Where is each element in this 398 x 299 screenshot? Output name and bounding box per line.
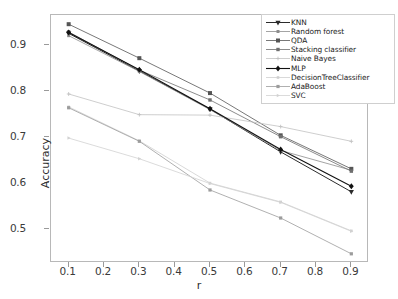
legend-item-stacking-classifier[interactable]: Stacking classifier — [265, 45, 390, 54]
data-point — [349, 183, 354, 189]
legend-marker — [276, 57, 280, 61]
y-tick-label: 0.8 — [0, 84, 26, 96]
x-axis-label: r — [0, 279, 398, 292]
x-tick-mark — [138, 262, 139, 267]
legend-marker-icon — [265, 27, 291, 36]
data-point — [208, 91, 212, 95]
y-tick-mark — [44, 228, 49, 229]
data-point — [138, 157, 141, 161]
data-point — [279, 125, 283, 129]
series-adaboost — [67, 106, 353, 255]
series-line — [69, 138, 352, 231]
legend-marker-icon — [265, 18, 291, 27]
y-axis-label: Accuracy — [39, 118, 52, 208]
legend-marker — [276, 39, 280, 43]
legend-item-svc[interactable]: SVC — [265, 91, 390, 100]
legend-marker — [277, 30, 280, 33]
legend-label: KNN — [291, 18, 307, 27]
data-point — [138, 140, 141, 143]
legend-item-knn[interactable]: KNN — [265, 18, 390, 27]
legend-marker-icon — [265, 91, 291, 100]
x-tick-mark — [350, 262, 351, 267]
x-tick-mark — [174, 262, 175, 267]
data-point — [137, 113, 141, 117]
x-tick-mark — [68, 262, 69, 267]
data-point — [350, 252, 353, 255]
legend-item-adaboost[interactable]: AdaBoost — [265, 82, 390, 91]
legend-marker — [277, 76, 280, 79]
legend-label: Random forest — [291, 27, 344, 36]
y-tick-mark — [44, 44, 49, 45]
data-point — [67, 106, 70, 109]
legend-label: QDA — [291, 36, 307, 45]
legend-marker — [276, 48, 279, 51]
data-point — [279, 216, 282, 219]
legend-marker — [275, 21, 280, 26]
y-tick-label: 0.9 — [0, 38, 26, 50]
legend-item-qda[interactable]: QDA — [265, 36, 390, 45]
legend-marker — [276, 85, 279, 88]
data-point — [279, 135, 282, 138]
legend-label: SVC — [291, 91, 306, 100]
y-tick-mark — [44, 90, 49, 91]
legend-marker-icon — [265, 45, 291, 54]
legend-marker-icon — [265, 54, 291, 63]
data-point — [208, 113, 212, 117]
legend-marker — [277, 94, 280, 98]
data-point — [67, 136, 70, 140]
legend-label: DecisionTreeClassifier — [291, 73, 369, 82]
data-point — [67, 92, 71, 96]
legend-label: AdaBoost — [291, 82, 325, 91]
figure: 0.50.60.70.80.9 0.10.20.30.40.50.60.70.8… — [0, 0, 398, 299]
x-tick-mark — [280, 262, 281, 267]
data-point — [350, 169, 353, 172]
legend-label: Stacking classifier — [291, 45, 356, 54]
data-point — [349, 139, 353, 143]
y-tick-label: 0.5 — [0, 222, 26, 234]
x-tick-mark — [315, 262, 316, 267]
series-line — [69, 107, 352, 231]
y-tick-label: 0.7 — [0, 130, 26, 142]
x-tick-mark — [209, 262, 210, 267]
x-tick-mark — [244, 262, 245, 267]
legend-item-decisiontreeclassifier[interactable]: DecisionTreeClassifier — [265, 73, 390, 82]
data-point — [208, 98, 211, 101]
legend-marker-icon — [265, 73, 291, 82]
data-point — [67, 22, 71, 26]
y-tick-label: 0.6 — [0, 176, 26, 188]
legend-marker — [276, 65, 281, 71]
data-point — [208, 188, 211, 191]
x-tick-mark — [103, 262, 104, 267]
legend[interactable]: KNNRandom forestQDAStacking classifierNa… — [261, 14, 395, 104]
legend-label: Naive Bayes — [291, 54, 336, 63]
data-point — [349, 190, 354, 195]
legend-label: MLP — [291, 64, 306, 73]
legend-marker-icon — [265, 36, 291, 45]
legend-marker-icon — [265, 82, 291, 91]
legend-item-random-forest[interactable]: Random forest — [265, 27, 390, 36]
series-line — [69, 108, 352, 254]
legend-item-naive-bayes[interactable]: Naive Bayes — [265, 54, 390, 63]
legend-item-mlp[interactable]: MLP — [265, 63, 390, 72]
data-point — [137, 56, 141, 60]
legend-marker-icon — [265, 64, 291, 73]
